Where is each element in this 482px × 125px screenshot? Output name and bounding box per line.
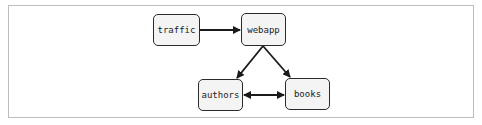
edge-webapp-authors <box>237 46 263 78</box>
node-webapp[interactable]: webapp <box>241 13 286 46</box>
node-traffic-label: traffic <box>158 25 196 35</box>
node-webapp-label: webapp <box>247 25 280 35</box>
node-books[interactable]: books <box>285 78 330 110</box>
node-authors[interactable]: authors <box>198 79 243 111</box>
edge-webapp-books <box>263 46 290 77</box>
node-books-label: books <box>294 89 321 99</box>
node-authors-label: authors <box>202 90 240 100</box>
node-traffic[interactable]: traffic <box>153 14 200 46</box>
